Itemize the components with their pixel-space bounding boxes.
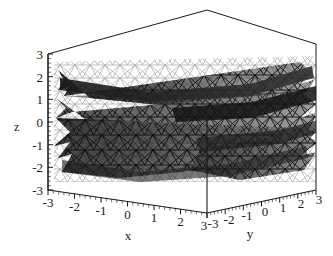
y-axis-label: y [247,226,254,241]
x-tick-neg3: -3 [43,195,54,210]
y-tick-0: 0 [262,204,269,219]
mesh-overlay [54,56,318,182]
z-tick-neg3: -3 [32,183,43,198]
y-tick-neg1: -1 [242,208,253,223]
z-tick-0: 0 [37,115,44,130]
z-tick-neg2: -2 [32,160,43,175]
z-axis-label: z [14,120,19,134]
x-tick-3: 3 [201,218,208,233]
x-tick-0: 0 [124,207,131,222]
surface-group [54,56,318,182]
y-tick-neg2: -2 [224,212,235,227]
surface-plot-figure: 3 2 1 0 -1 -2 -3 z [0,0,333,256]
z-tick-3: 3 [37,47,44,62]
x-tick-2: 2 [177,214,184,229]
y-tick-2: 2 [298,196,305,211]
plot-canvas: 3 2 1 0 -1 -2 -3 z [0,0,333,256]
z-tick-1: 1 [37,92,44,107]
x-axis-label: x [125,228,132,243]
x-tick-1: 1 [151,210,158,225]
z-tick-neg1: -1 [32,138,43,153]
z-tick-2: 2 [37,70,44,85]
x-tick-neg1: -1 [96,203,107,218]
x-tick-neg2: -2 [69,199,80,214]
y-tick-neg3: -3 [208,216,219,231]
y-tick-3: 3 [316,192,323,207]
y-tick-1: 1 [280,200,287,215]
